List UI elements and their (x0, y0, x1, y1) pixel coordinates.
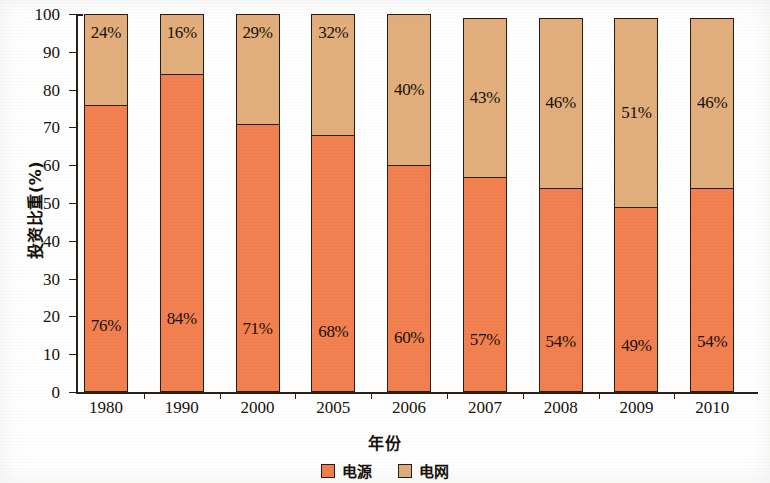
x-tick-label: 2008 (521, 398, 601, 418)
x-tick-label: 1980 (66, 398, 146, 418)
bar-segment-label: 49% (621, 336, 651, 356)
bar-segment-label: 43% (470, 88, 500, 108)
y-axis-tick-labels: 0102030405060708090100 (0, 14, 70, 392)
bar-segment-grid: 32% (312, 15, 354, 136)
bar-segment-label: 32% (318, 23, 348, 43)
bar-2010: 46%54% (690, 18, 734, 392)
y-axis-top-cap (76, 14, 83, 16)
bar-segment-grid: 46% (691, 19, 733, 189)
bar-segment-grid: 46% (540, 19, 582, 189)
bar-segment-grid: 51% (615, 19, 657, 208)
bar-2005: 32%68% (311, 14, 355, 392)
legend-swatch-icon (398, 464, 412, 478)
bar-segment-label: 60% (394, 328, 424, 348)
x-tick-label: 2007 (445, 398, 525, 418)
bar-segment-power: 49% (615, 208, 657, 392)
bar-segment-grid: 40% (388, 15, 430, 166)
y-tick-label: 100 (35, 6, 61, 23)
legend-item-power-grid[interactable]: 电网 (398, 460, 449, 481)
x-axis-line (76, 392, 758, 394)
y-tick-label: 20 (43, 308, 60, 325)
bar-segment-power: 84% (161, 75, 203, 392)
bar-2009: 51%49% (614, 18, 658, 392)
y-tick-mark (69, 14, 76, 15)
legend-item-power-source[interactable]: 电源 (321, 460, 372, 481)
bar-segment-power: 71% (237, 125, 279, 392)
stacked-bar-chart: 投资比重(%) 0102030405060708090100 24%76%16%… (0, 0, 770, 483)
y-tick-label: 0 (52, 384, 61, 401)
y-tick-label: 70 (43, 119, 60, 136)
y-tick-mark (69, 316, 76, 317)
bar-2006: 40%60% (387, 14, 431, 392)
bar-2008: 46%54% (539, 18, 583, 392)
y-tick-mark (69, 392, 76, 393)
bar-segment-power: 60% (388, 166, 430, 392)
bar-segment-grid: 16% (161, 15, 203, 75)
y-tick-mark (69, 279, 76, 280)
bar-segment-power: 57% (464, 178, 506, 392)
y-axis-line (76, 14, 78, 392)
bar-1990: 16%84% (160, 14, 204, 392)
bar-1980: 24%76% (84, 14, 128, 392)
bar-segment-power: 76% (85, 106, 127, 392)
y-tick-label: 10 (43, 346, 60, 363)
bar-segment-label: 57% (470, 330, 500, 350)
y-tick-mark (69, 90, 76, 91)
bar-segment-label: 68% (318, 322, 348, 342)
bar-segment-label: 46% (546, 93, 576, 113)
x-tick-label: 2006 (369, 398, 449, 418)
bar-segment-label: 24% (91, 23, 121, 43)
bar-segment-power: 54% (691, 189, 733, 392)
bar-segment-power: 54% (540, 189, 582, 392)
x-tick-label: 1990 (142, 398, 222, 418)
bar-segment-grid: 43% (464, 19, 506, 178)
bar-segment-label: 54% (697, 332, 727, 352)
y-tick-label: 90 (43, 43, 60, 60)
legend-label: 电网 (419, 460, 449, 481)
bar-2007: 43%57% (463, 18, 507, 392)
y-tick-mark (69, 241, 76, 242)
bar-segment-power: 68% (312, 136, 354, 392)
y-tick-label: 60 (43, 157, 60, 174)
x-tick-label: 2000 (218, 398, 298, 418)
bar-segment-label: 16% (167, 23, 197, 43)
y-tick-mark (69, 52, 76, 53)
x-tick-label: 2010 (672, 398, 752, 418)
bar-segment-grid: 29% (237, 15, 279, 125)
y-tick-label: 50 (43, 195, 60, 212)
bar-segment-label: 29% (242, 23, 272, 43)
y-tick-mark (69, 127, 76, 128)
y-tick-label: 80 (43, 81, 60, 98)
bar-segment-label: 40% (394, 80, 424, 100)
y-tick-mark (69, 165, 76, 166)
y-tick-label: 40 (43, 232, 60, 249)
legend-swatch-icon (321, 464, 335, 478)
y-tick-mark (69, 354, 76, 355)
y-tick-mark (69, 203, 76, 204)
bar-segment-label: 54% (546, 332, 576, 352)
bar-segment-label: 84% (167, 309, 197, 329)
x-tick-label: 2009 (596, 398, 676, 418)
bar-segment-label: 71% (242, 319, 272, 339)
plot-area: 24%76%16%84%29%71%32%68%40%60%43%57%46%5… (76, 14, 758, 392)
bar-segment-grid: 24% (85, 15, 127, 106)
bar-segment-label: 51% (621, 103, 651, 123)
bar-segment-label: 46% (697, 93, 727, 113)
chart-legend: 电源电网 (0, 460, 770, 481)
bar-2000: 29%71% (236, 14, 280, 392)
x-tick-label: 2005 (293, 398, 373, 418)
legend-label: 电源 (342, 460, 372, 481)
x-axis-title: 年份 (0, 430, 770, 454)
y-tick-label: 30 (43, 270, 60, 287)
bar-segment-label: 76% (91, 316, 121, 336)
